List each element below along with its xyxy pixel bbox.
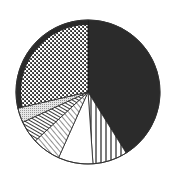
pie-slices <box>16 20 160 164</box>
pie-chart <box>0 0 169 172</box>
